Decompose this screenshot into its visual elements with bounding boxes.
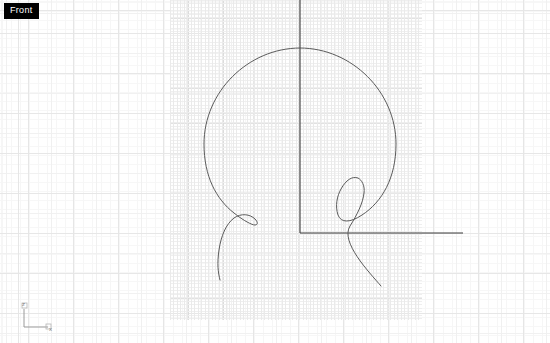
gizmo-label-x: x	[49, 326, 52, 332]
geometry-layer	[0, 0, 550, 343]
axis-gizmo: z x	[16, 301, 60, 335]
gizmo-label-z: z	[22, 301, 25, 307]
front-viewport[interactable]: Front z x	[0, 0, 550, 343]
viewport-title-label[interactable]: Front	[4, 3, 39, 19]
